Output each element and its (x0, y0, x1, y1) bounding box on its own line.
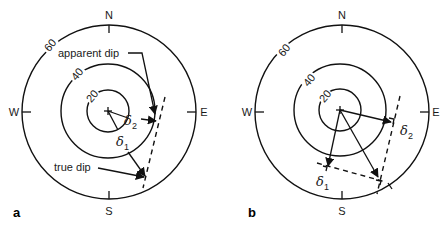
true-dip-label: true dip (54, 161, 91, 173)
delta2-label: δ (400, 123, 408, 138)
panel-a: N S W E 60 40 20 δ 2 δ 1 apparent dip tr… (9, 9, 208, 220)
ring-label-40: 40 (68, 65, 85, 82)
ring-label-20: 20 (316, 87, 333, 104)
south-label: S (338, 205, 345, 217)
ring-label-20: 20 (83, 87, 100, 104)
delta2-subscript: 2 (408, 131, 413, 141)
delta1-subscript: 1 (324, 182, 329, 192)
panel-a-label: a (13, 205, 21, 220)
east-label: E (432, 106, 439, 118)
delta2-subscript: 2 (132, 121, 137, 131)
dip-diagram: N S W E 60 40 20 δ 2 δ 1 apparent dip tr… (0, 0, 444, 226)
true-dip-leader (98, 168, 144, 177)
delta1-label: δ (116, 134, 124, 149)
panel-b-label: b (248, 205, 256, 220)
west-label: W (242, 106, 253, 118)
south-label: S (105, 205, 112, 217)
delta1-label: δ (316, 174, 324, 189)
delta1-subscript: 1 (124, 142, 129, 152)
delta1-arrow (128, 152, 145, 176)
north-label: N (105, 9, 113, 21)
north-label: N (338, 9, 346, 21)
apparent-dip-leader (128, 53, 155, 114)
ring-label-40: 40 (300, 71, 317, 88)
ring-label-60: 60 (275, 41, 292, 58)
delta2-label: δ (124, 113, 132, 128)
delta1-arrow (328, 110, 340, 166)
delta2-arrow (340, 110, 391, 122)
east-label: E (200, 106, 207, 118)
west-label: W (9, 106, 20, 118)
ring-label-60: 60 (41, 36, 58, 53)
apparent-dip-label: apparent dip (58, 47, 119, 59)
panel-b: N S W E 60 40 20 δ 2 δ 1 b (242, 9, 440, 220)
right-angle-mark (323, 166, 327, 171)
